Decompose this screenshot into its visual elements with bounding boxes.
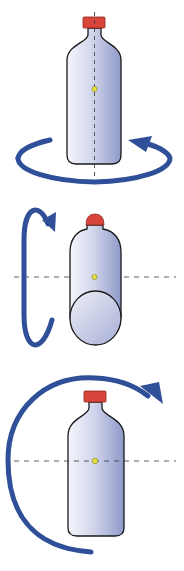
bottle-body <box>67 28 121 164</box>
bottle-body <box>68 402 124 536</box>
center-of-mass-dot <box>92 274 97 279</box>
bottle-rotation-diagram <box>0 0 184 571</box>
center-of-mass-dot <box>92 86 97 91</box>
bottle-cap <box>83 17 105 28</box>
bottle-bottom-end <box>70 291 121 345</box>
panel-transverse-axis <box>8 378 176 552</box>
bottle-cap <box>84 391 106 402</box>
arrow-head-icon <box>128 136 152 152</box>
bottle-cap <box>86 214 104 225</box>
center-of-mass-dot <box>92 458 98 464</box>
panel-longitudinal-axis <box>14 210 176 345</box>
rotation-arrow-back <box>18 140 50 158</box>
rotation-arrow-vertical-loop <box>24 210 52 345</box>
panel-vertical-axis <box>18 12 170 182</box>
